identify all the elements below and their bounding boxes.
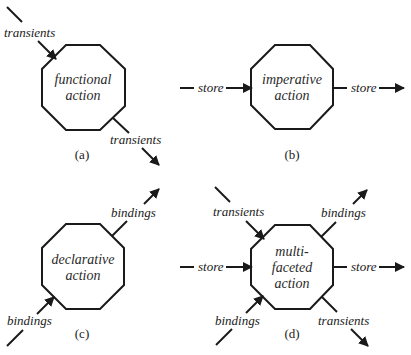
node-label-line-3: action [275,276,310,291]
node-label-line-1: declarative [52,252,115,267]
transients-out-label: transients [110,132,161,147]
imperative-action-node [251,45,333,129]
node-label-line-2: action [66,88,101,103]
bindings-out-tail [112,221,127,236]
transients-in-tail [215,187,230,202]
bindings-out-arrow-icon [144,189,159,204]
transients-in-label: transients [4,25,55,40]
store-out-label: store [351,80,377,95]
bindings-in-label: bindings [7,313,52,328]
store-out-label: store [351,259,377,274]
transients-in-arrow-icon [246,221,264,239]
panel-c: declarative action bindings bindings (c) [7,189,159,346]
bindings-out-label: bindings [321,205,366,220]
node-label-line-1: functional [55,72,112,87]
node-label-line-1: multi- [275,244,309,259]
bindings-in-tail [216,329,232,345]
node-label-line-1: imperative [262,72,322,87]
caption-d: (d) [284,326,299,341]
transients-out-tail [113,118,129,133]
transients-out-label: transients [318,313,369,328]
store-in-label: store [198,259,224,274]
transients-out-arrow-icon [142,148,159,165]
bindings-out-label: bindings [111,205,156,220]
panel-d: multi- faceted action transients store b… [180,187,404,346]
transients-in-tail [7,7,22,22]
bindings-in-tail [7,330,23,346]
bindings-in-arrow-icon [246,296,263,313]
transients-in-arrow-icon [38,41,56,59]
transients-in-label: transients [213,204,264,219]
bindings-out-arrow-icon [353,190,367,204]
bindings-in-label: bindings [215,313,260,328]
transients-out-arrow-icon [351,329,368,346]
transients-out-tail [322,297,337,312]
action-types-diagram: functional action transients transients … [0,0,411,355]
node-label-line-2: faceted [272,260,313,275]
bindings-out-tail [321,222,336,237]
node-label-line-2: action [66,268,101,283]
bindings-in-arrow-icon [37,297,54,314]
store-in-label: store [198,80,224,95]
panel-a: functional action transients transients … [4,7,161,165]
caption-b: (b) [284,147,299,162]
caption-c: (c) [75,326,89,341]
caption-a: (a) [75,147,89,162]
panel-b: imperative action store store (b) [180,45,404,162]
node-label-line-2: action [275,88,310,103]
